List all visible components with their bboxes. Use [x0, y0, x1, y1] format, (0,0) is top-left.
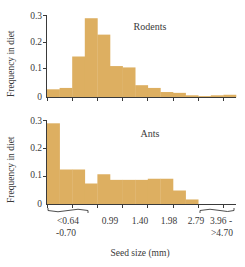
histogram-bar [186, 199, 199, 204]
y-tick-label-bottom-0.1: 0.1 [30, 170, 42, 180]
brace-last-bin [200, 208, 234, 213]
y-tick-label-bottom-0: 0 [37, 199, 42, 209]
histogram-bar [123, 67, 136, 97]
histogram-bar [148, 88, 161, 98]
bars-ants [47, 123, 199, 204]
x-tick-labels: <0.64 -0.70 0.99 1.40 1.98 2.79 3.96 - >… [56, 216, 233, 238]
x-tick-label-6-line2: >4.70 [211, 228, 233, 238]
histogram-bar [85, 184, 98, 205]
panel-ants: Frequency in diet 0.3 0.2 0.1 0 Ants [6, 116, 236, 213]
histogram-bar [135, 85, 148, 97]
x-tick-label-5: 2.79 [188, 216, 205, 226]
panel-rodents: Frequency in diet 0.3 0.2 0.1 0 Rodents [6, 11, 236, 102]
histogram-bar [148, 179, 161, 205]
histogram-bar [97, 174, 110, 204]
histogram-bar [60, 88, 73, 98]
histogram-bar [173, 93, 186, 98]
y-tick-label-top-0.1: 0.1 [30, 63, 42, 73]
x-ticks-rodents [47, 98, 223, 102]
x-tick-label-6-line1: 3.96 - [210, 216, 232, 226]
histogram-bar [72, 57, 85, 98]
panel-label-ants: Ants [141, 128, 160, 139]
histogram-bar [97, 35, 110, 98]
y-tick-label-bottom-0.2: 0.2 [30, 143, 42, 153]
figure-svg: Frequency in diet 0.3 0.2 0.1 0 Rodents … [0, 0, 245, 267]
histogram-bar [47, 123, 60, 204]
histogram-bar [160, 179, 173, 205]
histogram-bar [110, 66, 123, 97]
x-tick-label-1-line2: -0.70 [56, 228, 76, 238]
x-tick-label-2: 0.99 [102, 216, 119, 226]
histogram-bar [110, 180, 123, 205]
y-tick-label-top-0: 0 [37, 92, 42, 102]
y-tick-label-bottom-0.3: 0.3 [30, 116, 42, 126]
histogram-bar [85, 18, 98, 97]
histogram-bar [60, 170, 73, 205]
seed-size-histogram-figure: Frequency in diet 0.3 0.2 0.1 0 Rodents … [0, 0, 245, 267]
x-ticks-ants [47, 205, 223, 209]
histogram-bar [135, 180, 148, 205]
histogram-bar [72, 170, 85, 205]
histogram-bar [47, 89, 60, 97]
panel-label-rodents: Rodents [134, 21, 167, 32]
x-tick-label-3: 1.40 [132, 216, 149, 226]
x-axis-title: Seed size (mm) [110, 248, 169, 259]
y-tick-label-top-0.3: 0.3 [30, 11, 42, 21]
x-tick-label-1-line1: <0.64 [57, 216, 79, 226]
y-axis-title-top: Frequency in diet [6, 30, 16, 97]
x-tick-label-4: 1.98 [161, 216, 178, 226]
histogram-bar [173, 191, 186, 205]
histogram-bar [160, 92, 173, 97]
y-axis-title-bottom: Frequency in diet [6, 136, 16, 203]
brace-first-bin [48, 208, 88, 213]
histogram-bar [123, 180, 136, 205]
y-tick-label-top-0.2: 0.2 [30, 37, 42, 47]
